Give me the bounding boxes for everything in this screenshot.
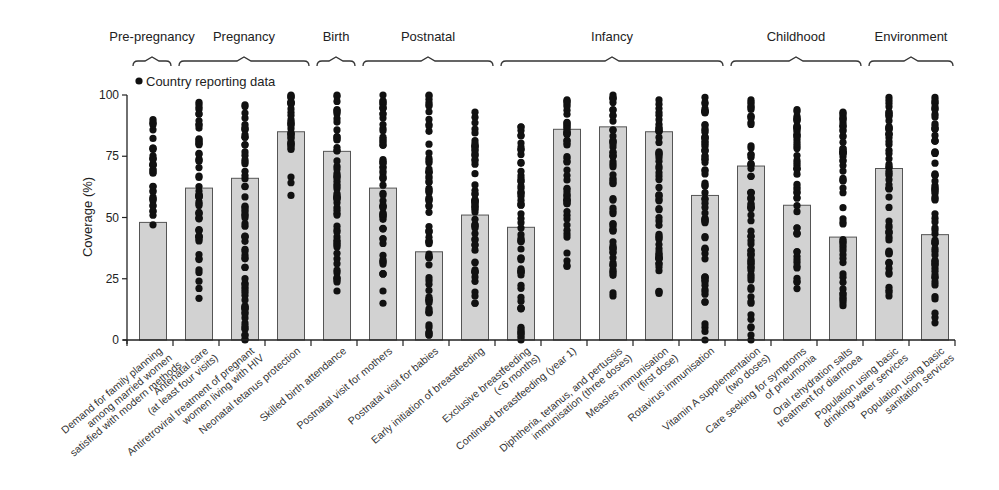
country-dot <box>379 182 386 189</box>
country-dot <box>839 274 846 281</box>
country-dot <box>517 305 524 312</box>
country-dot <box>747 142 754 149</box>
country-dot <box>655 134 662 141</box>
country-dot <box>747 115 754 122</box>
country-dot <box>425 121 432 128</box>
country-dot <box>241 183 248 190</box>
country-dot <box>149 221 156 228</box>
country-dot <box>517 168 524 175</box>
country-dot <box>839 115 846 122</box>
country-dot <box>931 150 938 157</box>
country-dot <box>241 322 248 329</box>
country-dot <box>793 157 800 164</box>
country-dot <box>195 121 202 128</box>
country-dot <box>839 127 846 134</box>
country-dot <box>931 137 938 144</box>
country-dot <box>379 211 386 218</box>
country-dot <box>655 267 662 274</box>
country-dot <box>931 295 938 302</box>
country-dot <box>885 150 892 157</box>
country-dot <box>241 220 248 227</box>
country-dot <box>701 328 708 335</box>
country-dot <box>379 256 386 263</box>
country-dot <box>701 170 708 177</box>
group-bracket <box>501 57 723 66</box>
country-dot <box>563 233 570 240</box>
country-dot <box>931 195 938 202</box>
country-dot <box>333 275 340 282</box>
country-dot <box>195 215 202 222</box>
country-dot <box>609 171 616 178</box>
group-label: Infancy <box>591 29 633 44</box>
country-dot <box>931 227 938 234</box>
country-dot <box>563 97 570 104</box>
country-dot <box>287 129 294 136</box>
country-dot <box>517 182 524 189</box>
country-dot <box>655 191 662 198</box>
country-dot <box>195 193 202 200</box>
country-dot <box>701 291 708 298</box>
country-dot <box>333 228 340 235</box>
country-dot <box>241 156 248 163</box>
country-dot <box>195 141 202 148</box>
country-dot <box>149 183 156 190</box>
country-dot <box>425 240 432 247</box>
country-dot <box>839 295 846 302</box>
country-dot <box>931 268 938 275</box>
country-dot <box>793 181 800 188</box>
country-dot <box>379 159 386 166</box>
country-dot <box>563 153 570 160</box>
country-dot <box>287 94 294 101</box>
country-dot <box>241 275 248 282</box>
country-dot <box>241 296 248 303</box>
group-label: Pre-pregnancy <box>109 29 195 44</box>
country-dot <box>931 113 938 120</box>
country-dot <box>333 173 340 180</box>
country-dot <box>333 98 340 105</box>
country-dot <box>885 176 892 183</box>
country-dot <box>793 248 800 255</box>
country-dot <box>563 227 570 234</box>
group-bracket <box>363 57 493 66</box>
country-dot <box>287 105 294 112</box>
country-dot <box>931 237 938 244</box>
country-dot <box>379 104 386 111</box>
country-dot <box>885 138 892 145</box>
country-dot <box>517 265 524 272</box>
country-dot <box>747 237 754 244</box>
country-dot <box>195 227 202 234</box>
country-dot <box>747 165 754 172</box>
country-dot <box>517 143 524 150</box>
country-dot <box>379 225 386 232</box>
country-dot <box>747 173 754 180</box>
country-dot <box>563 208 570 215</box>
country-dot <box>793 263 800 270</box>
country-dot <box>425 261 432 268</box>
country-dot <box>793 171 800 178</box>
country-dot <box>241 142 248 149</box>
country-dot <box>241 131 248 138</box>
country-dot <box>517 123 524 130</box>
x-tick-label: Skilled birth attendance <box>257 344 348 423</box>
country-dot <box>379 240 386 247</box>
country-dot <box>241 264 248 271</box>
country-dot <box>701 135 708 142</box>
country-dot <box>471 129 478 136</box>
country-dot <box>609 289 616 296</box>
country-dot <box>425 194 432 201</box>
country-dot <box>241 254 248 261</box>
country-dot <box>655 184 662 191</box>
country-dots <box>149 91 938 343</box>
country-dot <box>609 272 616 279</box>
country-dot <box>471 170 478 177</box>
country-dot <box>839 139 846 146</box>
country-dot <box>793 116 800 123</box>
country-dot <box>425 287 432 294</box>
country-dot <box>333 147 340 154</box>
svg-text:Skilled birth attendance: Skilled birth attendance <box>257 344 348 423</box>
country-dot <box>793 279 800 286</box>
country-dot <box>931 278 938 285</box>
country-dot <box>885 284 892 291</box>
country-dot <box>149 169 156 176</box>
country-dot <box>425 173 432 180</box>
